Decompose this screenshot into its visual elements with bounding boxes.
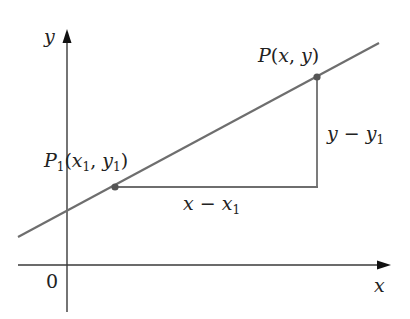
run-b-sub: 1 [232, 203, 240, 217]
run-op: − [194, 192, 222, 214]
p-x: x [278, 44, 289, 66]
x-axis-label: x [374, 276, 385, 295]
p1-y-sub: 1 [113, 160, 121, 174]
origin-label: 0 [46, 272, 58, 291]
run-label: x − x1 [183, 194, 240, 213]
run-a: x [183, 192, 194, 214]
y-axis-label: y [44, 27, 55, 46]
p1-x: x [72, 149, 83, 171]
p1-close: ) [121, 149, 128, 171]
rise-label: y − y1 [327, 124, 384, 143]
p-name: P [258, 44, 271, 66]
p1-open: ( [64, 149, 71, 171]
x-axis-arrow-icon [377, 261, 391, 270]
rise-b-sub: 1 [376, 133, 384, 147]
p1-sep: , [90, 149, 102, 171]
rise-a: y [327, 122, 338, 144]
y-axis-arrow-icon [63, 29, 72, 43]
p1-name: P [44, 149, 57, 171]
p-close: ) [312, 44, 319, 66]
run-b: x [222, 192, 233, 214]
point-p [313, 73, 320, 80]
point-p-label: P(x, y) [258, 46, 319, 65]
p1-y: y [102, 149, 113, 171]
point-p1 [111, 183, 118, 190]
p-y: y [301, 44, 312, 66]
rise-op: − [338, 122, 366, 144]
p-sep: , [289, 44, 301, 66]
point-p1-label: P1(x1, y1) [44, 151, 128, 170]
rise-b: y [366, 122, 377, 144]
